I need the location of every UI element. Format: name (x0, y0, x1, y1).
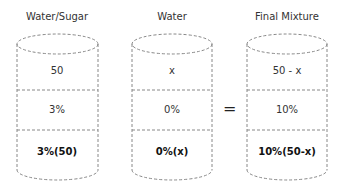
column-title-water-sugar: Water/Sugar (2, 11, 112, 22)
concentration-water-sugar: 3% (17, 104, 97, 115)
concentration-water: 0% (132, 104, 212, 115)
product-water: 0%(x) (132, 146, 212, 157)
amount-water: x (132, 65, 212, 76)
cylinders-drawing (0, 0, 343, 188)
product-final-mixture: 10%(50-x) (247, 146, 327, 157)
product-water-sugar: 3%(50) (17, 146, 97, 157)
column-title-final-mixture: Final Mixture (232, 11, 342, 22)
concentration-final-mixture: 10% (247, 104, 327, 115)
column-title-water: Water (117, 11, 227, 22)
amount-water-sugar: 50 (17, 65, 97, 76)
equals-sign: = (223, 99, 236, 118)
amount-final-mixture: 50 - x (247, 65, 327, 76)
